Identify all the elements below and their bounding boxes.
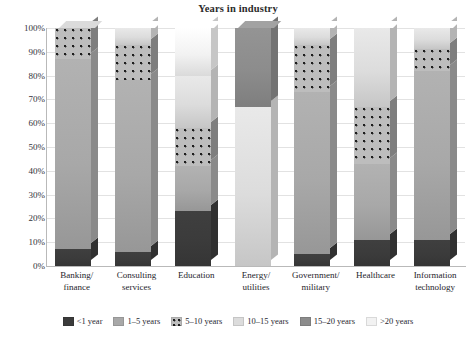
bar-6[interactable] — [354, 28, 390, 266]
x-axis-label-2: Consultingservices — [107, 270, 167, 293]
bar-segment — [175, 211, 211, 266]
bar-5[interactable] — [294, 28, 330, 266]
bar-stack — [294, 28, 330, 266]
bar-side-face — [211, 17, 218, 260]
x-axis-label-line: Education — [166, 270, 226, 282]
x-axis-label-line: services — [107, 282, 167, 294]
legend-label: 10–15 years — [247, 316, 288, 326]
x-axis-label-1: Banking/finance — [47, 270, 107, 293]
bar-top-face — [59, 21, 102, 28]
chart-title: Years in industry — [0, 3, 476, 14]
x-axis-label-line: Healthcare — [346, 270, 406, 282]
bar-segment — [294, 254, 330, 266]
bar-segment — [294, 45, 330, 93]
x-axis-label-line: Banking/ — [47, 270, 107, 282]
x-axis-label-4: Energy/utilities — [226, 270, 286, 293]
x-axis-category-labels: Banking/financeConsultingservicesEducati… — [47, 270, 466, 306]
bar-1[interactable] — [55, 28, 91, 266]
x-axis-label-line: military — [286, 282, 346, 294]
bar-segment — [115, 28, 151, 45]
x-axis-label-line: Energy/ — [226, 270, 286, 282]
bar-3[interactable] — [175, 28, 211, 266]
bar-side-segment — [390, 152, 397, 234]
legend-item-6[interactable]: >20 years — [366, 316, 413, 326]
bar-side-segment — [91, 47, 98, 243]
bar-side-segment — [151, 69, 158, 246]
bar-segment — [294, 92, 330, 254]
legend-swatch-icon — [63, 317, 74, 326]
bar-side-segment — [330, 81, 337, 248]
y-axis-tick-label: 30% — [3, 190, 45, 200]
chart-container: Years in industry 0%10%20%30%40%50%60%70… — [0, 0, 476, 344]
legend-item-5[interactable]: 15–20 years — [300, 316, 355, 326]
legend-item-3[interactable]: 5–10 years — [171, 316, 222, 326]
bar-side-segment — [271, 95, 278, 260]
y-axis-tick-label: 100% — [3, 23, 45, 33]
bar-side-segment — [390, 228, 397, 260]
bar-side-segment — [390, 95, 397, 158]
bar-side-face — [91, 17, 98, 260]
legend-label: 15–20 years — [314, 316, 355, 326]
legend-swatch-icon — [300, 317, 311, 326]
legend-swatch-icon — [171, 317, 182, 326]
legend-item-4[interactable]: 10–15 years — [233, 316, 288, 326]
x-axis-label-line: finance — [47, 282, 107, 294]
x-axis-label-line: technology — [405, 282, 465, 294]
legend-swatch-icon — [113, 317, 124, 326]
legend-item-1[interactable]: <1 year — [63, 316, 103, 326]
bar-side-segment — [450, 59, 457, 233]
bar-top-face — [119, 21, 162, 28]
y-axis-tick-label: 0% — [3, 261, 45, 271]
legend-swatch-icon — [366, 317, 377, 326]
x-axis-label-3: Education — [166, 270, 226, 282]
bar-top-face — [178, 21, 221, 28]
y-axis-tick-label: 50% — [3, 142, 45, 152]
legend-label: 5–10 years — [185, 316, 222, 326]
bar-2[interactable] — [115, 28, 151, 266]
x-axis-label-line: Consulting — [107, 270, 167, 282]
y-axis-line — [46, 28, 47, 267]
bar-side-segment — [151, 33, 158, 74]
legend-label: >20 years — [380, 316, 413, 326]
bar-segment — [414, 28, 450, 49]
bar-segment — [55, 59, 91, 249]
x-axis-label-7: Informationtechnology — [405, 270, 465, 293]
legend-item-2[interactable]: 1–5 years — [113, 316, 160, 326]
bar-segment — [115, 45, 151, 81]
bar-segment — [175, 76, 211, 128]
bar-segment — [235, 107, 271, 266]
bar-segment — [354, 28, 390, 107]
bar-segment — [115, 252, 151, 266]
y-axis-tick-label: 20% — [3, 213, 45, 223]
y-axis-tick-label: 70% — [3, 94, 45, 104]
bar-side-face — [450, 17, 457, 260]
bar-stack — [175, 28, 211, 266]
bar-7[interactable] — [414, 28, 450, 266]
bar-segment — [294, 28, 330, 45]
bar-side-segment — [211, 155, 218, 206]
y-axis-tick-label: 10% — [3, 237, 45, 247]
legend-swatch-icon — [233, 317, 244, 326]
x-axis-line — [47, 266, 466, 267]
bar-side-segment — [390, 17, 397, 101]
bar-stack — [354, 28, 390, 266]
bar-segment — [354, 240, 390, 266]
bar-top-face — [417, 21, 460, 28]
bar-side-face — [390, 17, 397, 260]
bar-segment — [55, 28, 91, 59]
bar-top-face — [238, 21, 281, 28]
bar-stack — [55, 28, 91, 266]
x-axis-label-line: Information — [405, 270, 465, 282]
bar-segment — [414, 71, 450, 240]
y-axis-tick-label: 60% — [3, 118, 45, 128]
bar-4[interactable] — [235, 28, 271, 266]
legend-label: <1 year — [77, 316, 103, 326]
y-axis-tick-labels: 0%10%20%30%40%50%60%70%80%90%100% — [0, 0, 45, 344]
bar-side-face — [330, 17, 337, 260]
bar-segment — [55, 249, 91, 266]
bar-segment — [175, 166, 211, 211]
bar-side-face — [151, 17, 158, 260]
legend-label: 1–5 years — [127, 316, 160, 326]
x-axis-label-line: Government/ — [286, 270, 346, 282]
bar-segment — [175, 128, 211, 166]
